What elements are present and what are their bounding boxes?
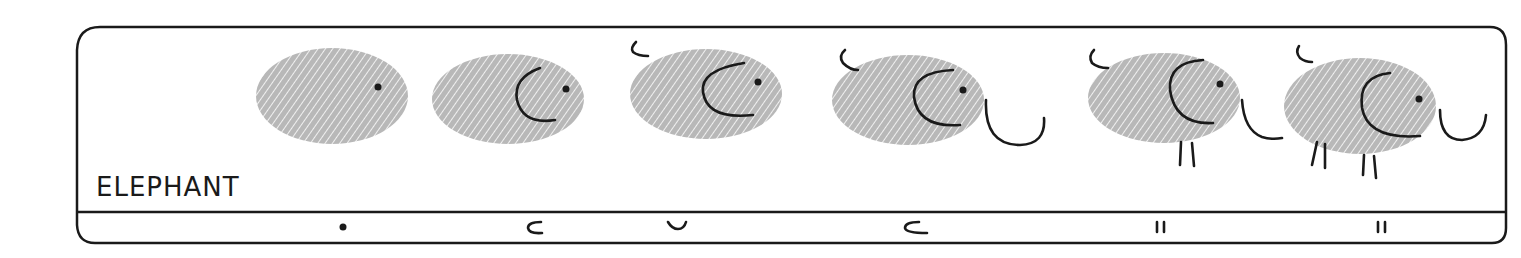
- guide-ear-icon: [528, 222, 542, 233]
- tail-icon: [632, 42, 648, 56]
- trunk-icon: [986, 100, 1044, 145]
- guide-back-legs-icon: [1378, 222, 1385, 232]
- stroke-guide: [340, 222, 1386, 233]
- tail-icon: [841, 50, 858, 70]
- thumbprint-2: [432, 54, 584, 144]
- trunk-icon: [1440, 110, 1486, 140]
- tail-icon: [1090, 50, 1108, 68]
- thumbprint-3: [630, 49, 782, 139]
- thumbprint-1: [256, 48, 408, 144]
- back-legs-icon: [1363, 155, 1376, 178]
- guide-front-legs-icon: [1157, 222, 1164, 232]
- elephant-panel: [0, 0, 1521, 258]
- trunk-icon: [1242, 100, 1282, 139]
- guide-tail-icon: [668, 222, 686, 229]
- front-legs-icon: [1180, 142, 1194, 166]
- tail-icon: [1297, 46, 1312, 62]
- thumbprint-5: [1088, 53, 1240, 143]
- guide-trunk-icon: [905, 222, 927, 233]
- guide-eye-icon: [340, 224, 347, 231]
- thumbprint-6: [1284, 58, 1436, 154]
- panel-title: ELEPHANT: [96, 172, 240, 202]
- eye-icon: [375, 84, 382, 91]
